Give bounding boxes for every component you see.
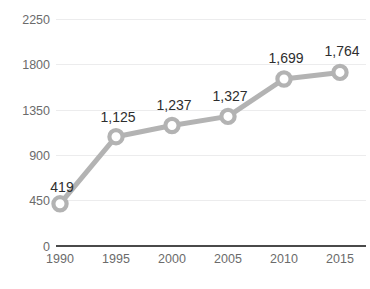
ytick-label-1800: 1800 [22,58,50,72]
xtick-label-2015: 2015 [326,252,354,266]
ytick-label-1350: 1350 [22,104,50,118]
data-point-marker-2015[interactable] [333,66,346,79]
data-label-1995: 1,125 [100,109,135,125]
y-axis-tick-labels: 2250 1800 1350 900 450 0 [22,13,50,254]
x-axis-tick-labels: 1990 1995 2000 2005 2010 2015 [46,252,354,266]
data-label-2015: 1,764 [324,43,359,59]
xtick-label-2005: 2005 [214,252,242,266]
xtick-label-1990: 1990 [46,252,74,266]
chart-canvas: 2250 1800 1350 900 450 0 419 1,125 1,237… [0,0,370,289]
data-label-1990: 419 [50,179,74,195]
data-point-marker-2005[interactable] [221,110,234,123]
data-point-marker-1990[interactable] [53,197,66,210]
data-point-marker-1995[interactable] [109,130,122,143]
data-label-2005: 1,327 [212,88,247,104]
xtick-label-1995: 1995 [102,252,130,266]
data-label-2010: 1,699 [268,50,303,66]
series-line-path [60,72,340,203]
data-point-marker-2010[interactable] [277,72,290,85]
ytick-label-450: 450 [29,194,50,208]
xtick-label-2010: 2010 [270,252,298,266]
series-markers [53,66,346,211]
xtick-label-2000: 2000 [158,252,186,266]
ytick-label-2250: 2250 [22,13,50,27]
data-label-2000: 1,237 [156,97,191,113]
ytick-label-900: 900 [29,149,50,163]
data-point-marker-2000[interactable] [165,119,178,132]
line-chart: 2250 1800 1350 900 450 0 419 1,125 1,237… [0,0,370,289]
